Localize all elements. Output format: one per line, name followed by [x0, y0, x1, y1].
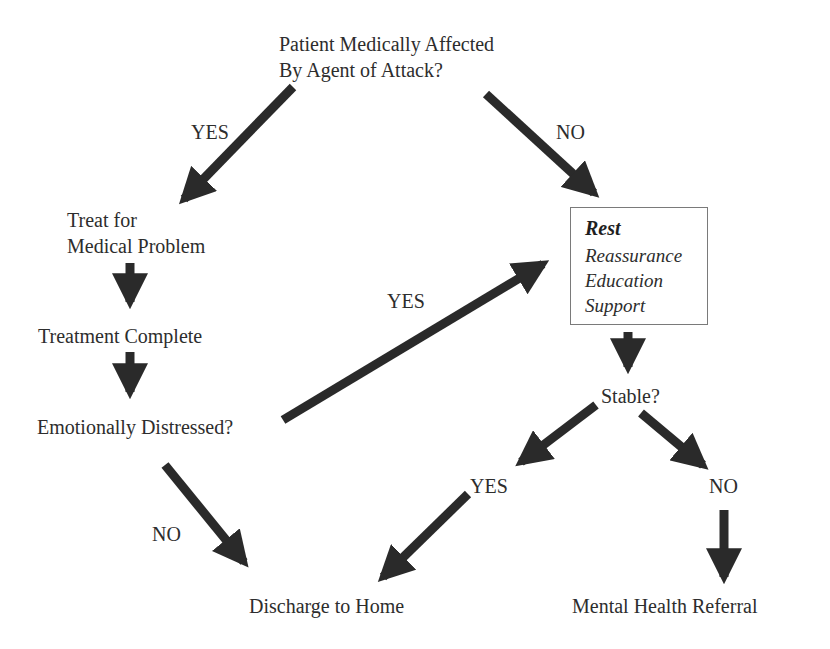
care-box-item-reassurance: Reassurance — [585, 244, 682, 268]
stable-yes-node: YES — [470, 473, 508, 499]
edge-label-distressed-no: NO — [152, 521, 181, 547]
treat-line1: Treat for — [67, 207, 205, 233]
care-box-item-education: Education — [585, 269, 663, 293]
care-box: Rest Reassurance Education Support — [570, 207, 708, 325]
arrow-stable-no — [641, 413, 703, 465]
discharge-home-node: Discharge to Home — [249, 593, 404, 619]
mental-health-referral-node: Mental Health Referral — [572, 593, 757, 619]
arrow-stable-yes — [521, 405, 596, 462]
treat-line2: Medical Problem — [67, 233, 205, 259]
edge-label-start-no: NO — [556, 119, 585, 145]
edge-label-distressed-yes: YES — [387, 288, 425, 314]
care-box-item-support: Support — [585, 294, 645, 318]
stable-node: Stable? — [601, 383, 660, 409]
treatment-complete-node: Treatment Complete — [38, 323, 202, 349]
start-question-line1: Patient Medically Affected — [279, 31, 494, 57]
arrow-distressed-no — [165, 465, 244, 562]
stable-no-node: NO — [709, 473, 738, 499]
arrow-yes-to-discharge — [383, 494, 468, 577]
treat-medical-node: Treat for Medical Problem — [67, 207, 205, 259]
emotionally-distressed-node: Emotionally Distressed? — [37, 414, 233, 440]
start-question-line2: By Agent of Attack? — [279, 57, 494, 83]
edge-label-start-yes: YES — [191, 119, 229, 145]
care-box-title: Rest — [585, 216, 621, 240]
start-question: Patient Medically Affected By Agent of A… — [279, 31, 494, 83]
